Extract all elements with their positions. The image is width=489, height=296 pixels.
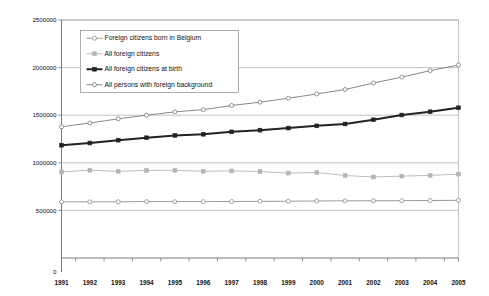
- data-point: [428, 198, 432, 202]
- x-axis-tick-label: 1995: [168, 279, 183, 286]
- data-point: [93, 36, 97, 40]
- line-chart: 05000001000000150000020000002500000 1991…: [0, 0, 489, 296]
- legend-label: All foreign citizens at birth: [105, 65, 183, 73]
- data-point: [400, 75, 404, 79]
- data-point: [230, 103, 234, 107]
- data-point: [173, 110, 177, 114]
- data-point: [93, 67, 97, 71]
- data-point: [428, 173, 432, 177]
- chart-background: [0, 0, 489, 296]
- legend-item-4[interactable]: All persons with foreign background: [87, 81, 213, 89]
- legend-label: All foreign citizens: [105, 50, 160, 58]
- data-point: [428, 110, 432, 114]
- legend-label: Foreign citizens born in Belgium: [105, 34, 202, 42]
- data-point: [372, 175, 376, 179]
- data-point: [400, 199, 404, 203]
- x-axis-tick-label: 1994: [139, 279, 154, 286]
- data-point: [230, 130, 234, 134]
- chart-canvas: 05000001000000150000020000002500000 1991…: [0, 0, 489, 296]
- data-point: [88, 121, 92, 125]
- x-axis-tick-label: 1999: [281, 279, 296, 286]
- x-axis-tick-label: 1991: [54, 279, 69, 286]
- data-point: [173, 133, 177, 137]
- x-axis-tick-label: 1998: [253, 279, 268, 286]
- data-point: [116, 117, 120, 121]
- data-point: [93, 83, 97, 87]
- data-point: [371, 81, 375, 85]
- data-point: [145, 136, 149, 140]
- data-point: [201, 132, 205, 136]
- data-point: [145, 200, 149, 204]
- legend-item-1[interactable]: Foreign citizens born in Belgium: [87, 34, 202, 42]
- data-point: [343, 122, 347, 126]
- x-axis-tick-label: 1996: [196, 279, 211, 286]
- x-axis-tick-label: 1992: [83, 279, 98, 286]
- x-axis-tick-label: 1997: [225, 279, 240, 286]
- x-axis-tick-label: 2004: [423, 279, 438, 286]
- x-axis-tick-labels: 1991199219931994199519961997199819992000…: [54, 279, 466, 286]
- data-point: [315, 124, 319, 128]
- data-point: [173, 168, 177, 172]
- data-point: [286, 171, 290, 175]
- y-axis-tick-label: 1500000: [32, 111, 57, 118]
- data-point: [116, 200, 120, 204]
- chart-legend: Foreign citizens born in BelgiumAll fore…: [81, 31, 239, 93]
- data-point: [145, 169, 149, 173]
- x-axis-tick-label: 2000: [310, 279, 325, 286]
- data-point: [201, 108, 205, 112]
- data-point: [286, 199, 290, 203]
- data-point: [400, 174, 404, 178]
- data-point: [88, 168, 92, 172]
- data-point: [230, 199, 234, 203]
- data-point: [173, 200, 177, 204]
- data-point: [315, 199, 319, 203]
- data-point: [286, 126, 290, 130]
- data-point: [60, 143, 64, 147]
- x-axis-tick-label: 2003: [395, 279, 410, 286]
- data-point: [400, 113, 404, 117]
- data-point: [60, 125, 64, 129]
- data-point: [457, 172, 461, 176]
- data-point: [315, 171, 319, 175]
- data-point: [428, 69, 432, 73]
- data-point: [88, 200, 92, 204]
- data-point: [201, 200, 205, 204]
- data-point: [457, 106, 461, 110]
- data-point: [457, 63, 461, 67]
- x-axis-tick-label: 1993: [111, 279, 126, 286]
- data-point: [372, 118, 376, 122]
- legend-label: All persons with foreign background: [105, 81, 213, 89]
- y-axis-tick-label: 500000: [36, 207, 57, 214]
- data-point: [258, 128, 262, 132]
- y-axis-tick-label: 1000000: [32, 159, 57, 166]
- data-point: [145, 113, 149, 117]
- data-point: [116, 138, 120, 142]
- data-point: [88, 141, 92, 145]
- data-point: [116, 169, 120, 173]
- data-point: [286, 96, 290, 100]
- y-axis-tick-label: 2000000: [32, 64, 57, 71]
- data-point: [60, 200, 64, 204]
- data-point: [201, 169, 205, 173]
- data-point: [93, 52, 97, 56]
- x-axis-tick-label: 2002: [366, 279, 381, 286]
- data-point: [258, 170, 262, 174]
- y-axis-tick-label: 0: [53, 268, 57, 275]
- x-axis-tick-label: 2001: [338, 279, 353, 286]
- data-point: [343, 199, 347, 203]
- x-axis-tick-label: 2005: [451, 279, 466, 286]
- data-point: [371, 199, 375, 203]
- data-point: [343, 174, 347, 178]
- data-point: [457, 198, 461, 202]
- y-axis-tick-label: 2500000: [32, 16, 57, 23]
- data-point: [258, 100, 262, 104]
- data-point: [258, 199, 262, 203]
- data-point: [60, 170, 64, 174]
- data-point: [343, 87, 347, 91]
- data-point: [230, 169, 234, 173]
- data-point: [315, 92, 319, 96]
